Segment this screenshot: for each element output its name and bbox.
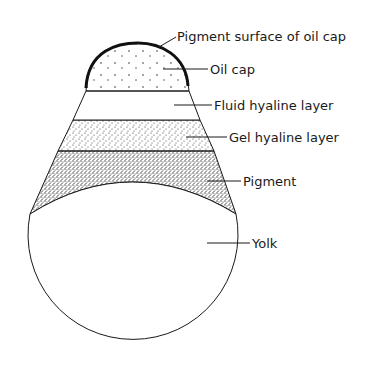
leader-pigment-surface [159, 37, 176, 47]
label-fluid-hyaline: Fluid hyaline layer [214, 98, 334, 113]
label-oil-cap: Oil cap [210, 62, 255, 77]
label-pigment: Pigment [243, 174, 296, 189]
egg-diagram: Pigment surface of oil cap Oil cap Fluid… [0, 0, 392, 373]
label-pigment-surface: Pigment surface of oil cap [177, 29, 346, 44]
label-yolk: Yolk [251, 236, 278, 251]
gel-hyaline-layer [58, 120, 214, 151]
oil-cap [86, 43, 189, 91]
label-gel-hyaline: Gel hyaline layer [229, 130, 340, 145]
yolk [28, 182, 238, 339]
